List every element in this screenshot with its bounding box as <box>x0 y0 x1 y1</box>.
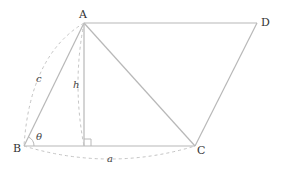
angle-arc <box>29 137 35 146</box>
vertex-label-c: C <box>197 144 205 157</box>
height-label-h: h <box>73 79 79 90</box>
side-label-a: a <box>107 153 113 164</box>
vertex-label-a: A <box>78 8 88 21</box>
side-label-c: c <box>36 73 42 84</box>
edge-dc <box>195 23 257 146</box>
vertex-label-b: B <box>13 142 21 155</box>
diagonal-ac <box>84 23 195 146</box>
angle-label-theta: θ <box>36 131 42 142</box>
parallelogram-diagram: A B C D c h a θ <box>0 0 282 172</box>
right-angle-marker <box>84 139 91 146</box>
vertex-label-d: D <box>261 16 270 29</box>
